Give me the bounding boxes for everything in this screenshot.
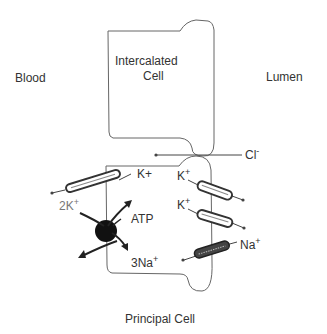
- k-basolateral-label: K+: [137, 168, 152, 180]
- principal-cell-label: Principal Cell: [125, 313, 195, 325]
- blood-label: Blood: [15, 72, 46, 84]
- na-pump-label: 3Na+: [131, 255, 158, 269]
- k-apical-2-label: K+: [177, 197, 190, 211]
- principal-cell-outline: [106, 156, 212, 291]
- diagram-canvas: [0, 0, 327, 334]
- intercalated-cell-label-line1: Intercalated: [115, 55, 178, 67]
- na-k-atpase-pump: [78, 200, 132, 258]
- na-channel-apical: [181, 240, 237, 262]
- lumen-label: Lumen: [266, 71, 303, 83]
- cl-ion-label: Cl-: [245, 147, 259, 161]
- k-channel-apical-1: [188, 180, 245, 202]
- intercalated-cell-label-line2: Cell: [143, 70, 164, 82]
- k-apical-1-label: K+: [177, 168, 190, 182]
- na-apical-label: Na+: [240, 237, 261, 251]
- intercalated-cell-outline: [108, 20, 214, 156]
- atp-label: ATP: [131, 213, 153, 225]
- k-channel-apical-2: [188, 209, 246, 230]
- k-channel-basolateral: [50, 169, 131, 195]
- k-pump-label: 2K+: [59, 198, 79, 212]
